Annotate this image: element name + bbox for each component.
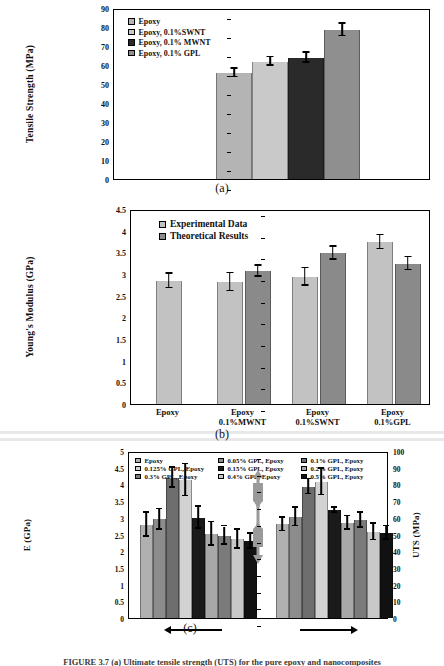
- error-bar: [295, 508, 297, 526]
- y-tick-mark: [227, 95, 231, 96]
- y-tick-mark: [227, 57, 231, 58]
- x-tick-label: Epoxy0.1%MWNT: [219, 408, 266, 427]
- legend-item: 0.125% GPL, Epoxy: [135, 465, 204, 472]
- figure-caption: FIGURE 3.7 (a) Ultimate tensile strength…: [0, 657, 444, 666]
- y-axis-label-b: Young's Modulus (GPa): [25, 222, 35, 392]
- y-tick-mark: [261, 259, 265, 260]
- bar: [315, 482, 328, 618]
- error-bar: [224, 527, 226, 545]
- y-tick-label: 60: [101, 62, 109, 71]
- chart-panel-b: Young's Modulus (GPa) Experimental DataT…: [0, 205, 444, 440]
- error-bar-cap: [267, 56, 274, 58]
- bar: [302, 487, 315, 618]
- legend-swatch: [159, 233, 166, 240]
- bar: [320, 253, 346, 404]
- y-tick-mark: [261, 238, 265, 239]
- y-tick-mark: [227, 152, 231, 153]
- legend-item: Epoxy, 0.1% MWNT: [128, 38, 211, 47]
- legend-label: Experimental Data: [170, 219, 247, 229]
- bar: [245, 271, 271, 404]
- error-bar-cap: [226, 272, 233, 274]
- error-bar-cap: [292, 506, 298, 508]
- y-tick-label: 50: [393, 531, 401, 540]
- y-tick-mark: [261, 389, 265, 390]
- bar: [205, 534, 218, 618]
- bar: [252, 62, 288, 179]
- error-bar-cap: [301, 284, 308, 286]
- y-tick-mark: [261, 324, 265, 325]
- y-tick-label: 4: [120, 481, 124, 490]
- error-bar: [304, 268, 306, 285]
- y-tick-label: 0: [105, 176, 109, 185]
- y-tick-label: 30: [393, 564, 401, 573]
- error-bar-cap: [331, 511, 337, 513]
- error-bar-cap: [221, 525, 227, 527]
- legend-item: 0.3% GPL, Epoxy: [135, 473, 197, 480]
- error-bar: [237, 530, 239, 549]
- legend-item: Epoxy, 0.1% GPL: [128, 49, 200, 58]
- error-bar-cap: [231, 67, 238, 69]
- error-bar-cap: [329, 245, 336, 247]
- error-bar-cap: [221, 543, 227, 545]
- error-bar-cap: [303, 61, 310, 63]
- legend-label: 0.1% GPL, Epoxy: [311, 457, 364, 464]
- y-tick-label: 80: [101, 24, 109, 33]
- error-bar-cap: [318, 494, 324, 496]
- legend-item: Experimental Data: [159, 219, 247, 229]
- y-tick-label: 10: [101, 157, 109, 166]
- error-bar-cap: [404, 269, 411, 271]
- bar: [276, 524, 289, 618]
- bar: [156, 281, 182, 404]
- error-bar-cap: [357, 526, 363, 528]
- y-tick-label: 90: [393, 464, 401, 473]
- error-bar-cap: [339, 22, 346, 24]
- panel-label-a: (a): [0, 181, 444, 196]
- legend-label: 0.125% GPL, Epoxy: [145, 465, 205, 472]
- y-tick-label: 70: [101, 43, 109, 52]
- legend-label: Epoxy: [139, 17, 161, 26]
- legend-label: Epoxy, 0.1%SWNT: [139, 28, 206, 37]
- y-tick-label: 20: [101, 138, 109, 147]
- y-tick-label: 3: [122, 271, 126, 280]
- y-tick-label: 90: [101, 5, 109, 14]
- y-tick-mark: [261, 216, 265, 217]
- plot-area-c: Epoxy0.05% GPL, Epoxy0.1% GPL, Epoxy0.12…: [128, 452, 388, 619]
- y-tick-label: 4.5: [115, 464, 124, 473]
- legend-label: Theoretical Results: [170, 231, 248, 241]
- y-tick-mark: [257, 509, 261, 510]
- error-bar: [211, 522, 213, 545]
- bar: [231, 539, 244, 618]
- error-bar-cap: [331, 506, 337, 508]
- y-tick-label: 40: [101, 100, 109, 109]
- error-bar-cap: [254, 275, 261, 277]
- legend-label: Epoxy, 0.1% GPL: [139, 49, 201, 58]
- x-tick-label: Epoxy0.1%SWNT: [295, 408, 339, 427]
- error-bar-cap: [370, 539, 376, 541]
- error-bar-cap: [267, 64, 274, 66]
- bar: [289, 517, 302, 618]
- y-tick-label: 3: [120, 514, 124, 523]
- legend-item: Epoxy: [135, 457, 163, 464]
- y-tick-label: 1: [122, 357, 126, 366]
- error-bar-cap: [143, 535, 149, 537]
- y-tick-label: 3.5: [116, 249, 126, 258]
- y-axis-label-a: Tensile Strength (MPa): [25, 14, 35, 174]
- panel-label-b: (b): [0, 427, 444, 442]
- bar: [324, 30, 360, 179]
- y-tick-mark: [227, 133, 231, 134]
- chart-panel-c: E (GPa) UTS (MPa) Epoxy0.05% GPL, Epoxy0…: [0, 446, 444, 652]
- y-tick-mark: [261, 346, 265, 347]
- error-bar-cap: [156, 528, 162, 530]
- y-tick-label: 2.5: [116, 292, 126, 301]
- legend-item: 0.1% GPL, Epoxy: [301, 457, 363, 464]
- plot-area-b: Experimental DataTheoretical Results: [130, 210, 430, 405]
- legend-item: 0.2% GPL, Epoxy: [301, 465, 363, 472]
- y-tick-label: 4: [122, 227, 126, 236]
- bar: [395, 264, 421, 404]
- error-bar: [229, 273, 231, 291]
- legend-swatch: [128, 50, 135, 57]
- error-bar-cap: [208, 544, 214, 546]
- y-tick-label: 30: [101, 119, 109, 128]
- y-tick-mark: [227, 19, 231, 20]
- y-axis-label-c: E (GPa): [22, 485, 32, 585]
